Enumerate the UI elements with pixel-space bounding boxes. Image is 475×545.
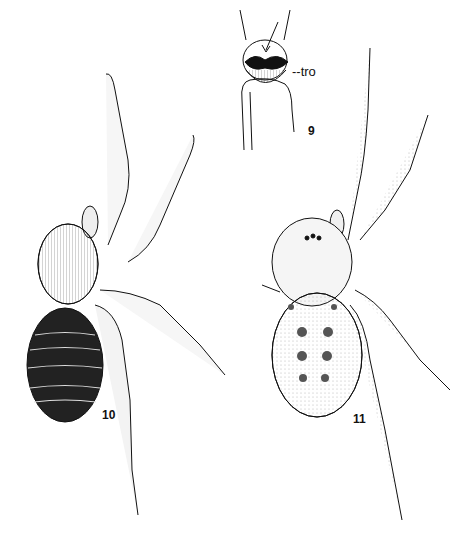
label-figure-11: 11 <box>353 412 366 426</box>
label-tro: --tro <box>292 64 316 79</box>
label-figure-9: 9 <box>308 124 315 138</box>
figure-11-spider <box>262 48 450 520</box>
label-figure-10: 10 <box>102 408 115 422</box>
figure-10-spider <box>27 74 225 515</box>
illustration-plate <box>0 0 475 545</box>
figure-9-leg-detail <box>240 10 294 150</box>
